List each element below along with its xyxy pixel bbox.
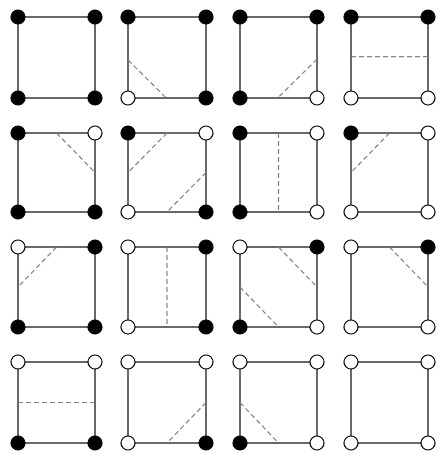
case-cell-6	[121, 126, 213, 219]
cell-square	[128, 362, 206, 443]
cell-square	[351, 247, 428, 327]
open-vertex-icon	[121, 436, 135, 450]
filled-vertex-icon	[11, 10, 25, 24]
filled-vertex-icon	[199, 320, 213, 334]
cell-square	[18, 133, 95, 212]
filled-vertex-icon	[88, 10, 102, 24]
case-cell-12	[344, 240, 435, 334]
filled-vertex-icon	[199, 436, 213, 450]
cell-square	[240, 362, 317, 443]
filled-vertex-icon	[88, 240, 102, 254]
case-cell-10	[121, 240, 213, 334]
open-vertex-icon	[421, 205, 435, 219]
open-vertex-icon	[121, 91, 135, 105]
marching-squares-diagram	[0, 0, 446, 457]
filled-vertex-icon	[421, 10, 435, 24]
contour-dash-line	[128, 133, 167, 173]
filled-vertex-icon	[421, 240, 435, 254]
open-vertex-icon	[11, 355, 25, 369]
filled-vertex-icon	[310, 240, 324, 254]
filled-vertex-icon	[88, 91, 102, 105]
cell-square	[128, 133, 206, 212]
open-vertex-icon	[421, 436, 435, 450]
cell-square	[351, 133, 428, 212]
open-vertex-icon	[199, 355, 213, 369]
contour-dash-line	[279, 247, 318, 287]
contour-dash-line	[18, 247, 57, 287]
case-cell-5	[11, 126, 102, 219]
contour-dash-line	[278, 59, 317, 98]
filled-vertex-icon	[121, 126, 135, 140]
cell-square	[240, 247, 317, 327]
case-cell-8	[344, 126, 435, 219]
filled-vertex-icon	[233, 91, 247, 105]
filled-vertex-icon	[233, 10, 247, 24]
filled-vertex-icon	[11, 320, 25, 334]
filled-vertex-icon	[199, 205, 213, 219]
open-vertex-icon	[121, 205, 135, 219]
contour-dash-line	[390, 247, 429, 287]
cell-square	[128, 17, 206, 98]
open-vertex-icon	[233, 355, 247, 369]
case-cell-14	[121, 355, 213, 450]
filled-vertex-icon	[11, 91, 25, 105]
contour-dash-line	[167, 173, 206, 213]
open-vertex-icon	[310, 355, 324, 369]
filled-vertex-icon	[88, 320, 102, 334]
open-vertex-icon	[310, 205, 324, 219]
open-vertex-icon	[11, 240, 25, 254]
open-vertex-icon	[88, 355, 102, 369]
case-cell-4	[344, 10, 435, 105]
contour-dash-line	[128, 60, 166, 98]
case-cell-11	[233, 240, 324, 334]
cell-square	[351, 17, 428, 98]
open-vertex-icon	[344, 355, 358, 369]
case-cell-13	[11, 355, 102, 450]
case-cell-2	[121, 10, 213, 105]
open-vertex-icon	[344, 205, 358, 219]
cell-square	[351, 362, 428, 443]
filled-vertex-icon	[233, 436, 247, 450]
open-vertex-icon	[121, 320, 135, 334]
filled-vertex-icon	[233, 126, 247, 140]
open-vertex-icon	[310, 126, 324, 140]
open-vertex-icon	[121, 240, 135, 254]
cell-square	[18, 17, 95, 98]
filled-vertex-icon	[233, 205, 247, 219]
open-vertex-icon	[310, 91, 324, 105]
case-cell-1	[11, 10, 102, 105]
open-vertex-icon	[344, 91, 358, 105]
filled-vertex-icon	[121, 10, 135, 24]
case-cell-16	[344, 355, 435, 450]
filled-vertex-icon	[233, 320, 247, 334]
filled-vertex-icon	[199, 240, 213, 254]
filled-vertex-icon	[344, 126, 358, 140]
contour-dash-line	[351, 133, 390, 173]
open-vertex-icon	[233, 240, 247, 254]
filled-vertex-icon	[310, 10, 324, 24]
open-vertex-icon	[344, 436, 358, 450]
open-vertex-icon	[121, 355, 135, 369]
open-vertex-icon	[344, 320, 358, 334]
filled-vertex-icon	[11, 126, 25, 140]
open-vertex-icon	[421, 126, 435, 140]
open-vertex-icon	[344, 240, 358, 254]
open-vertex-icon	[310, 320, 324, 334]
case-cell-7	[233, 126, 324, 219]
open-vertex-icon	[421, 320, 435, 334]
filled-vertex-icon	[199, 91, 213, 105]
filled-vertex-icon	[199, 10, 213, 24]
filled-vertex-icon	[11, 436, 25, 450]
case-cell-9	[11, 240, 102, 334]
case-cell-3	[233, 10, 324, 105]
contour-dash-line	[240, 403, 279, 444]
filled-vertex-icon	[344, 10, 358, 24]
case-cell-15	[233, 355, 324, 450]
contour-dash-line	[240, 287, 279, 327]
open-vertex-icon	[310, 436, 324, 450]
cell-square	[18, 247, 95, 327]
filled-vertex-icon	[88, 205, 102, 219]
open-vertex-icon	[88, 126, 102, 140]
contour-dash-line	[57, 133, 96, 173]
filled-vertex-icon	[11, 205, 25, 219]
